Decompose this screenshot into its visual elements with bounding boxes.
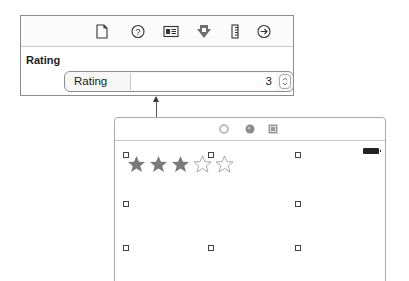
section-title: Rating xyxy=(26,54,60,66)
star-empty-icon[interactable] xyxy=(192,155,213,173)
rating-field-group: Rating 3 xyxy=(64,71,294,92)
first-responder-icon[interactable] xyxy=(245,124,255,134)
rating-field-label: Rating xyxy=(74,75,107,87)
exit-icon[interactable] xyxy=(268,124,278,134)
resize-handle[interactable] xyxy=(295,201,301,207)
resize-handle[interactable] xyxy=(208,245,214,251)
scene-dock xyxy=(115,118,385,141)
view-controller-icon[interactable] xyxy=(219,124,229,134)
quick-help-icon[interactable]: ? xyxy=(131,24,145,39)
star-filled-icon[interactable] xyxy=(170,155,191,173)
size-inspector-icon[interactable] xyxy=(230,24,240,39)
rating-control[interactable] xyxy=(126,155,235,173)
identity-inspector-icon[interactable] xyxy=(163,24,179,39)
battery-icon xyxy=(363,148,379,154)
rating-input[interactable]: 3 xyxy=(130,73,276,90)
resize-handle[interactable] xyxy=(295,245,301,251)
file-inspector-icon[interactable] xyxy=(95,24,109,39)
view-controller-scene[interactable] xyxy=(114,117,386,281)
star-filled-icon[interactable] xyxy=(126,155,147,173)
svg-text:?: ? xyxy=(135,27,140,37)
attributes-inspector-icon[interactable] xyxy=(196,24,212,39)
resize-handle[interactable] xyxy=(123,245,129,251)
star-empty-icon[interactable] xyxy=(214,155,235,173)
inspector-toolbar: ? xyxy=(21,16,293,47)
resize-handle[interactable] xyxy=(123,201,129,207)
connections-inspector-icon[interactable] xyxy=(257,24,271,39)
attributes-inspector-panel: ? Rating Rating 3 xyxy=(20,15,294,96)
rating-stepper[interactable] xyxy=(279,74,291,89)
star-filled-icon[interactable] xyxy=(148,155,169,173)
resize-handle[interactable] xyxy=(295,152,301,158)
